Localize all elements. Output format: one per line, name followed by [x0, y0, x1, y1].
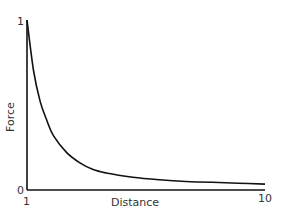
force-distance-chart — [0, 0, 281, 217]
y-axis-label: Force — [4, 102, 17, 132]
x-axis-label: Distance — [111, 197, 159, 208]
x-tick-max: 10 — [258, 193, 272, 204]
force-curve — [27, 20, 265, 184]
x-tick-min: 1 — [23, 196, 30, 207]
y-tick-max: 1 — [17, 16, 24, 27]
